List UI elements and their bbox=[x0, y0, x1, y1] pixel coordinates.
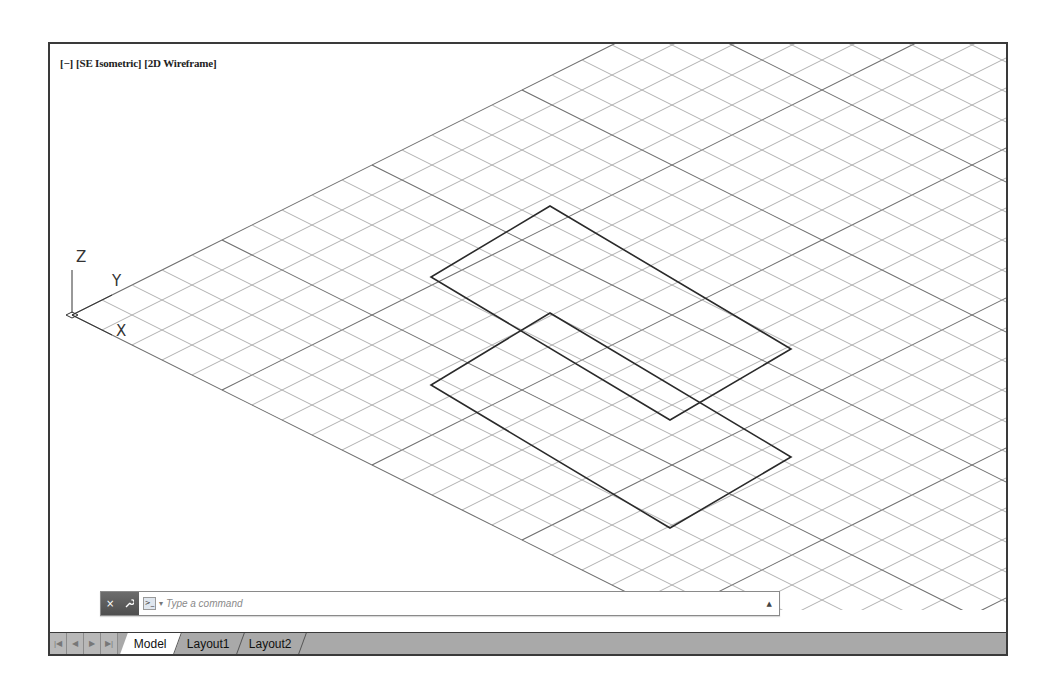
view-menu[interactable]: [SE Isometric] bbox=[76, 57, 141, 69]
close-icon[interactable]: × bbox=[106, 598, 114, 609]
previous-tab-button[interactable]: ◀ bbox=[67, 633, 84, 654]
tab-layout2[interactable]: Layout2 bbox=[236, 633, 307, 654]
command-line-handle[interactable]: × bbox=[101, 592, 139, 615]
command-line[interactable]: × >_ ▾ ▲ bbox=[100, 591, 780, 616]
viewport-controls-menu[interactable]: [−] bbox=[60, 57, 73, 69]
command-input[interactable] bbox=[166, 598, 767, 609]
next-tab-button[interactable]: ▶ bbox=[84, 633, 101, 654]
viewport-controls: [−] [SE Isometric] [2D Wireframe] bbox=[60, 57, 216, 69]
tab-layout1[interactable]: Layout1 bbox=[173, 633, 244, 654]
drawing-viewport[interactable]: [−] [SE Isometric] [2D Wireframe] Z Y X bbox=[48, 42, 1008, 612]
recent-commands-dropdown-icon[interactable]: ▾ bbox=[159, 599, 163, 608]
first-tab-button[interactable]: |◀ bbox=[50, 633, 67, 654]
command-prompt-icon[interactable]: >_ bbox=[143, 597, 156, 610]
last-tab-button[interactable]: ▶| bbox=[101, 633, 118, 654]
tab-model[interactable]: Model bbox=[120, 633, 181, 654]
command-history-toggle-icon[interactable]: ▲ bbox=[767, 600, 772, 608]
isometric-grid bbox=[50, 44, 1006, 612]
wrench-icon[interactable] bbox=[124, 598, 134, 610]
visual-style-menu[interactable]: [2D Wireframe] bbox=[144, 57, 216, 69]
layout-tab-bar: |◀ ◀ ▶ ▶| Model Layout1 Layout2 bbox=[48, 632, 1008, 656]
